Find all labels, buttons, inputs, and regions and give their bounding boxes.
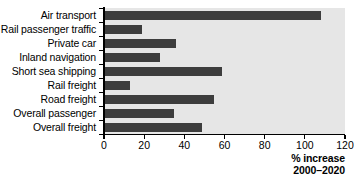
category-label: Rail passenger traffic — [0, 22, 100, 36]
bar-row — [104, 64, 345, 78]
category-label: Overall freight — [0, 120, 100, 134]
category-label: Overall passenger — [0, 106, 100, 120]
x-axis-tick-label: 20 — [138, 139, 150, 151]
bar — [104, 109, 174, 118]
bar-row — [104, 8, 345, 22]
axis-caption-line2: 2000–2020 — [291, 164, 345, 176]
bar — [104, 67, 222, 76]
bar — [104, 81, 130, 90]
x-axis-tick-label: 80 — [259, 139, 271, 151]
bar — [104, 95, 214, 104]
bar — [104, 11, 321, 20]
category-label: Air transport — [0, 8, 100, 22]
bar-row — [104, 22, 345, 36]
category-label: Road freight — [0, 92, 100, 106]
category-label: Private car — [0, 36, 100, 50]
axis-caption: % increase 2000–2020 — [291, 152, 345, 176]
x-axis-tick — [304, 135, 305, 139]
bar — [104, 53, 160, 62]
x-axis-tick-label: 100 — [296, 139, 314, 151]
bar-row — [104, 78, 345, 92]
x-axis-tick-label: 0 — [101, 139, 107, 151]
category-label: Rail freight — [0, 78, 100, 92]
bar-row — [104, 92, 345, 106]
bar-row — [104, 36, 345, 50]
bar-chart: Air transport Rail passenger traffic Pri… — [0, 0, 354, 178]
bar — [104, 123, 202, 132]
y-axis-line — [103, 7, 105, 135]
bar-row — [104, 106, 345, 120]
axis-caption-line1: % increase — [291, 152, 345, 164]
x-axis-tick — [144, 135, 145, 139]
bar-series — [104, 8, 345, 134]
x-axis-tick — [344, 135, 345, 139]
x-axis-tick — [103, 135, 104, 139]
x-axis-tick — [184, 135, 185, 139]
category-axis-labels: Air transport Rail passenger traffic Pri… — [0, 8, 100, 134]
bar — [104, 25, 142, 34]
x-axis-tick-label: 40 — [178, 139, 190, 151]
bar-row — [104, 120, 345, 134]
x-axis-line — [103, 134, 345, 136]
bar-row — [104, 50, 345, 64]
x-axis-tick-label: 120 — [336, 139, 354, 151]
x-axis-tick — [264, 135, 265, 139]
x-axis-tick-label: 60 — [219, 139, 231, 151]
x-axis-tick — [224, 135, 225, 139]
category-label: Inland navigation — [0, 50, 100, 64]
category-label: Short sea shipping — [0, 64, 100, 78]
bar — [104, 39, 176, 48]
